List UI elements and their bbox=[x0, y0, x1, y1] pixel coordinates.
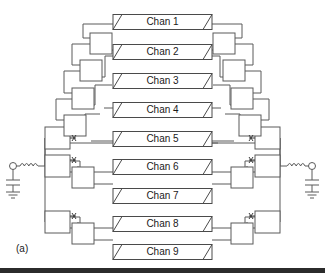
junction-box[interactable] bbox=[223, 60, 245, 81]
channel-block[interactable]: Chan 3 bbox=[113, 74, 212, 89]
channel-label: Chan 6 bbox=[146, 161, 179, 172]
channel-label: Chan 1 bbox=[146, 16, 179, 27]
channel-label: Chan 7 bbox=[146, 190, 179, 201]
right-termination bbox=[287, 163, 319, 199]
junction-box[interactable] bbox=[231, 223, 253, 244]
left-inductor-icon bbox=[20, 164, 38, 167]
junction-box[interactable] bbox=[64, 115, 86, 136]
junction-box[interactable] bbox=[239, 115, 261, 136]
channel-label: Chan 4 bbox=[146, 104, 179, 115]
junction-box[interactable] bbox=[45, 155, 70, 177]
x-marker-icon bbox=[249, 213, 255, 219]
left-ground-icon bbox=[6, 192, 20, 198]
junction-box[interactable] bbox=[72, 167, 94, 188]
channel-label: Chan 9 bbox=[146, 246, 179, 257]
channel-label: Chan 2 bbox=[146, 46, 179, 57]
x-marker-icon bbox=[70, 213, 76, 219]
channel-label: Chan 5 bbox=[146, 133, 179, 144]
junction-box[interactable] bbox=[231, 88, 253, 109]
x-marker-icon bbox=[70, 157, 76, 163]
figure-panel: Chan 1Chan 2Chan 3Chan 4Chan 5Chan 6Chan… bbox=[0, 0, 325, 278]
channel-block[interactable]: Chan 7 bbox=[113, 189, 212, 204]
left-port-circle-icon[interactable] bbox=[10, 163, 17, 170]
junction-box[interactable] bbox=[72, 88, 94, 109]
left-termination bbox=[6, 163, 38, 199]
right-ground-icon bbox=[305, 192, 319, 198]
junction-box[interactable] bbox=[90, 33, 112, 54]
junction-box[interactable] bbox=[255, 155, 280, 177]
junction-box[interactable] bbox=[45, 211, 70, 233]
junction-box[interactable] bbox=[255, 211, 280, 233]
channel-block[interactable]: Chan 1 bbox=[113, 15, 212, 30]
channel-block[interactable]: Chan 2 bbox=[113, 45, 212, 60]
junction-box[interactable] bbox=[72, 223, 94, 244]
x-marker-icon bbox=[249, 157, 255, 163]
channel-block[interactable]: Chan 8 bbox=[113, 217, 212, 232]
right-port-circle-icon[interactable] bbox=[309, 163, 316, 170]
channel-block[interactable]: Chan 6 bbox=[113, 160, 212, 175]
channel-boxes: Chan 1Chan 2Chan 3Chan 4Chan 5Chan 6Chan… bbox=[113, 15, 212, 260]
junction-box[interactable] bbox=[213, 33, 235, 54]
circuit-diagram: Chan 1Chan 2Chan 3Chan 4Chan 5Chan 6Chan… bbox=[0, 0, 325, 278]
figure-caption: (a) bbox=[16, 243, 28, 254]
channel-label: Chan 3 bbox=[146, 75, 179, 86]
junction-box[interactable] bbox=[80, 60, 102, 81]
channel-label: Chan 8 bbox=[146, 218, 179, 229]
channel-block[interactable]: Chan 4 bbox=[113, 103, 212, 118]
junction-box[interactable] bbox=[231, 167, 253, 188]
footer-bar bbox=[0, 268, 325, 273]
channel-block[interactable]: Chan 9 bbox=[113, 245, 212, 260]
channel-block[interactable]: Chan 5 bbox=[113, 132, 212, 147]
right-inductor-icon bbox=[287, 164, 305, 167]
